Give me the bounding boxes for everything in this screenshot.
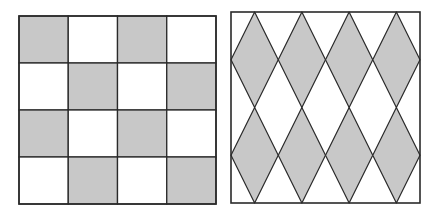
white-cell [118,63,167,110]
shaded-cell [118,110,167,157]
white-cell [19,157,68,204]
shaded-cell [167,157,216,204]
diamond-pattern-figure [231,12,420,203]
shaded-cell [68,63,117,110]
shaded-cell [19,16,68,63]
shaded-cell [68,157,117,204]
white-cell [167,16,216,63]
white-cell [118,157,167,204]
shaded-cell [167,63,216,110]
white-cell [68,16,117,63]
checkerboard-figure [19,16,216,204]
shaded-cell [19,110,68,157]
figure-canvas [0,0,444,217]
white-cell [68,110,117,157]
white-cell [19,63,68,110]
white-cell [167,110,216,157]
shaded-cell [118,16,167,63]
